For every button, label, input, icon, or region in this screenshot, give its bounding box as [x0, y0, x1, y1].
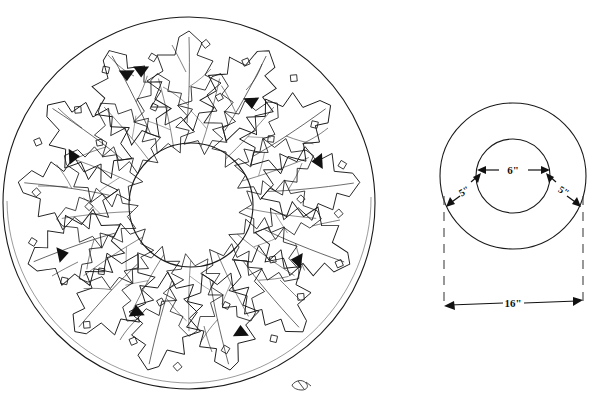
outer-diameter-label: 16" [504, 297, 521, 309]
holly-leaf [185, 31, 297, 154]
holly-berry [214, 92, 224, 102]
drawing-sheet: 6" 5" 5" [0, 0, 594, 417]
inner-diameter-dimension: 6" [477, 164, 550, 176]
right-border-label: 5" [556, 184, 571, 199]
holly-berry [240, 56, 252, 68]
holly-leaf [124, 67, 202, 162]
wreath-illustration [3, 17, 375, 390]
dimension-inner-circle [476, 139, 550, 213]
left-border-dimension: 5" [446, 173, 481, 207]
holly-berry [201, 39, 211, 49]
holly-berry [337, 159, 348, 170]
holly-berry [85, 202, 94, 211]
holly-berry [32, 188, 42, 198]
holly-berry [80, 318, 93, 331]
holly-leaf-ring [13, 31, 365, 380]
holly-solid-tip [133, 66, 149, 77]
dimension-outer-circle [440, 103, 586, 249]
holly-berry [220, 344, 231, 355]
holly-leaf [52, 132, 151, 218]
holly-solid-tip [56, 245, 70, 263]
holly-berry [268, 332, 280, 344]
holly-leaf [72, 36, 184, 159]
holly-berry [334, 209, 344, 219]
holly-berry [147, 52, 158, 63]
holly-leaf [213, 229, 335, 353]
artist-signature-mark [292, 381, 311, 390]
holly-berry [173, 362, 183, 372]
holly-solid-tip [243, 98, 260, 110]
holly-berry [27, 236, 38, 247]
inner-diameter-label: 6" [507, 164, 519, 176]
holly-leaf [17, 199, 137, 304]
right-border-dimension: 5" [546, 173, 581, 207]
holly-solid-tip [128, 304, 145, 316]
holly-leaf [24, 79, 148, 197]
holly-leaf [168, 65, 246, 160]
holly-leaf [255, 141, 363, 226]
outer-diameter-dimension: 16" [444, 297, 583, 310]
pattern-drawing-canvas: 6" 5" 5" [0, 0, 594, 417]
holly-leaf-inner-group [52, 65, 325, 337]
holly-leaf [190, 232, 282, 333]
holly-leaf [13, 150, 121, 236]
holly-berry-group [27, 39, 347, 371]
holly-berry [127, 335, 139, 347]
holly-leaf [245, 189, 365, 294]
holly-berry [32, 136, 44, 148]
dimension-diagram: 6" 5" 5" [440, 103, 586, 310]
holly-berry [287, 72, 300, 85]
